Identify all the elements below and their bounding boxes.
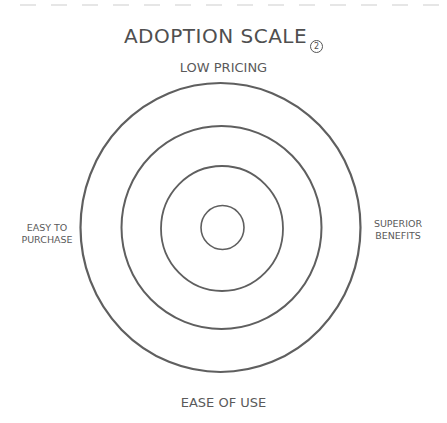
label-easy-to-purchase: EASY TO PURCHASE (12, 222, 82, 246)
label-line: PURCHASE (12, 234, 82, 246)
label-line: BENEFITS (362, 230, 434, 242)
ring-inner (201, 206, 244, 250)
label-superior-benefits: SUPERIOR BENEFITS (362, 218, 434, 242)
label-line: SUPERIOR (362, 218, 434, 230)
ring-second (122, 126, 322, 329)
label-line: EASY TO (12, 222, 82, 234)
ring-third (161, 166, 283, 291)
label-ease-of-use: EASE OF USE (0, 395, 447, 410)
concentric-rings (0, 0, 447, 423)
